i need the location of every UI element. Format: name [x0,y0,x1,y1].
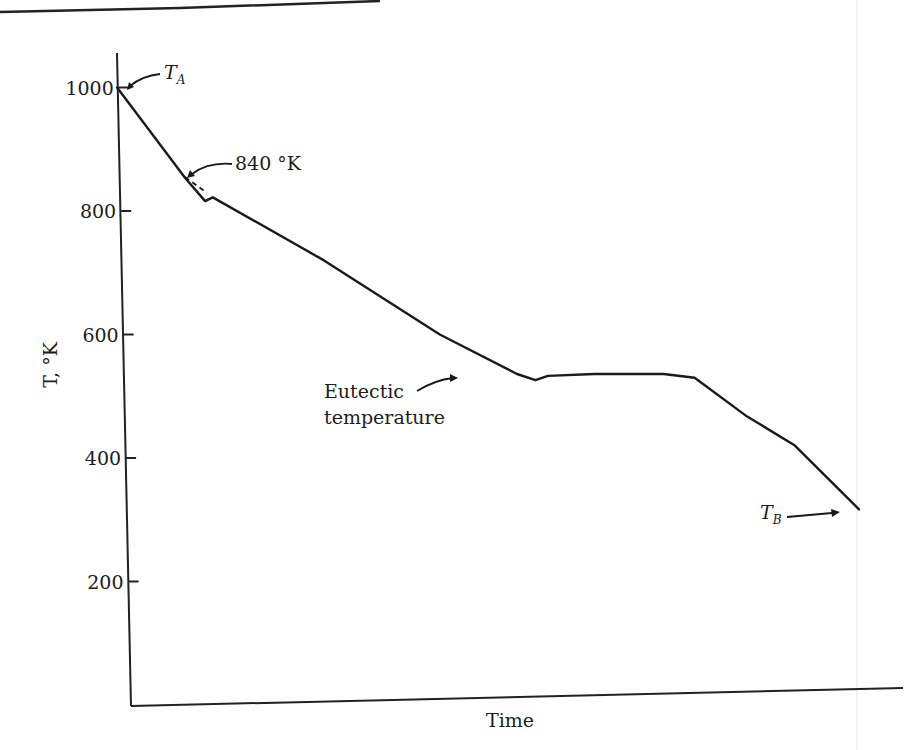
eutectic-arrow [417,378,453,391]
840k-arrowhead [187,170,195,178]
ta-subscript: A [176,73,186,87]
page-edge-line [0,1,380,12]
y-tick-label: 400 [85,447,121,469]
annotation-840k: 840 °K [187,152,302,178]
x-axis-label: Time [486,709,534,731]
annotation-eutectic: Eutectic temperature [324,374,458,428]
840k-label: 840 °K [235,152,302,174]
eutectic-arrowhead [450,374,458,382]
y-tick-label: 1000 [65,77,113,99]
x-axis [131,688,903,706]
cooling-curve-chart: 2004006008001000 T, °K Time TA 840 °K Eu… [0,0,917,750]
ta-arrow [130,74,160,86]
y-tick-label: 800 [80,200,116,222]
tb-arrow [787,513,832,517]
tb-arrowhead [831,509,840,517]
y-tick-label: 200 [87,571,123,593]
y-tick-label: 600 [82,324,118,346]
annotation-tb: TB [760,501,840,527]
eutectic-label-line2: temperature [324,406,445,428]
svg-text:TB: TB [760,501,782,527]
annotation-ta: TA [127,61,186,90]
y-axis [117,53,131,706]
eutectic-label-line1: Eutectic [324,380,404,402]
y-axis-label: T, °K [39,341,61,387]
svg-text:TA: TA [164,61,186,87]
tb-subscript: B [772,513,782,527]
axes [117,53,903,706]
840k-arrow [192,164,232,174]
cooling-curve-line [117,88,859,510]
